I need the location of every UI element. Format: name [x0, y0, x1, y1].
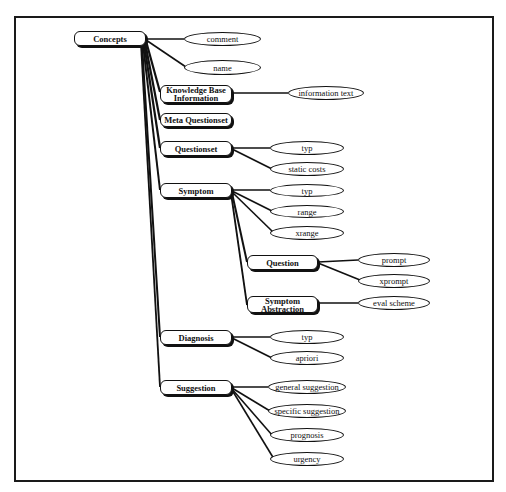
- node-knowledge-base-information: Knowledge Base Information: [160, 85, 232, 103]
- attr-label: static costs: [288, 164, 325, 174]
- attr-label: eval scheme: [373, 298, 415, 308]
- attr-label: typ: [302, 186, 313, 196]
- attr-label: apriori: [296, 353, 319, 363]
- attr-symptom-typ: typ: [270, 184, 344, 197]
- attr-xrange: xrange: [270, 226, 344, 240]
- attr-label: prognosis: [290, 430, 323, 440]
- node-symptom-abstraction: Symptom Abstraction: [247, 296, 318, 313]
- node-label: Information: [174, 94, 218, 102]
- attr-name: name: [184, 60, 261, 75]
- attr-comment: comment: [184, 32, 261, 46]
- node-label: Concepts: [93, 35, 127, 43]
- node-label: Meta Questionset: [164, 116, 228, 124]
- attr-information-text: information text: [288, 86, 364, 100]
- attr-label: general suggestion: [275, 382, 339, 392]
- diagram-edges: [0, 0, 506, 492]
- attr-label: specific suggestion: [275, 406, 340, 416]
- attr-xprompt: xprompt: [358, 274, 430, 288]
- attr-label: xrange: [295, 228, 318, 238]
- attr-label: xprompt: [380, 276, 409, 286]
- node-symptom: Symptom: [160, 183, 232, 198]
- node-diagnosis: Diagnosis: [160, 330, 232, 345]
- node-suggestion: Suggestion: [160, 380, 232, 395]
- node-label: Abstraction: [261, 305, 304, 313]
- node-question: Question: [247, 255, 318, 270]
- node-label: Questionset: [175, 145, 218, 153]
- attr-specific-suggestion: specific suggestion: [268, 404, 346, 418]
- attr-questionset-typ: typ: [270, 141, 344, 155]
- node-label: Symptom: [179, 187, 214, 195]
- attr-diagnosis-typ: typ: [270, 330, 344, 344]
- attr-label: range: [298, 207, 317, 217]
- attr-prompt: prompt: [358, 253, 430, 267]
- attr-label: prompt: [382, 255, 407, 265]
- node-label: Diagnosis: [179, 334, 214, 342]
- attr-label: typ: [302, 332, 313, 342]
- node-meta-questionset: Meta Questionset: [160, 113, 232, 127]
- attr-apriori: apriori: [270, 351, 344, 365]
- node-label: Suggestion: [176, 384, 215, 392]
- attr-label: information text: [298, 88, 353, 98]
- attr-static-costs: static costs: [270, 162, 344, 176]
- attr-general-suggestion: general suggestion: [268, 380, 346, 394]
- node-questionset: Questionset: [160, 141, 232, 156]
- attr-label: urgency: [293, 454, 320, 464]
- node-concepts: Concepts: [74, 31, 146, 46]
- attr-label: comment: [207, 34, 239, 44]
- attr-eval-scheme: eval scheme: [358, 296, 430, 310]
- attr-range: range: [270, 205, 344, 218]
- node-label: Question: [266, 259, 299, 267]
- attr-label: name: [213, 63, 231, 73]
- attr-prognosis: prognosis: [270, 428, 344, 442]
- attr-label: typ: [302, 143, 313, 153]
- attr-urgency: urgency: [270, 452, 344, 466]
